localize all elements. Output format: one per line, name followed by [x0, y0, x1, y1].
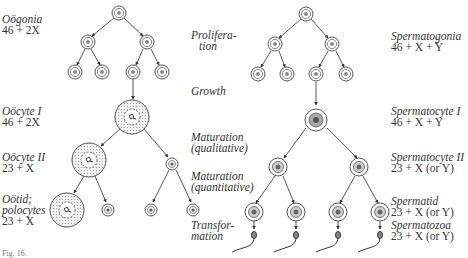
- spermatogonia-cells: [251, 7, 353, 81]
- label-ootid-polocytes: Oötid; polocytes 23 + X: [2, 194, 45, 227]
- polocytes: [102, 204, 199, 216]
- stage-transformation: Transfor- mation: [191, 220, 234, 242]
- stage-proliferation: Prolifera- tion: [191, 30, 237, 52]
- label-spermatogonia: Spermatogonia 46 + X + Y: [391, 31, 461, 53]
- first-polar-body: [166, 158, 178, 170]
- label-oogonia: Oögonia 46 + 2X: [2, 14, 42, 36]
- label-oocyte-i: Oöcyte I 46 + 2X: [2, 106, 41, 128]
- label-spermatocyte-i: Spermatocyte I 46 + X + Y: [391, 106, 460, 128]
- label-spermatozoa: Spermatozoa 23 + X (or Y): [391, 220, 454, 242]
- spermatocyte-ii-cells: [269, 158, 368, 176]
- spermatocyte-i-cell: [305, 109, 327, 131]
- stage-growth: Growth: [191, 86, 226, 97]
- stage-maturation-qualitative: Maturation (qualitative): [191, 132, 248, 154]
- ootid-cell: [50, 193, 84, 227]
- figure-caption: Fig. 16.: [2, 249, 27, 258]
- stage-maturation-quantitative: Maturation (quantitative): [191, 171, 254, 193]
- label-spermatocyte-ii: Spermatocyte II 23 + X (or Y): [391, 152, 464, 174]
- oogonia-cells: [68, 6, 169, 79]
- spermatid-cells: [245, 203, 389, 221]
- label-spermatid: Spermatid 23 + X (or Y): [391, 196, 454, 218]
- label-oocyte-ii: Oöcyte II 23 + X: [2, 152, 45, 174]
- spermatozoa: [232, 232, 383, 253]
- oocyte-ii-cell: [72, 143, 106, 177]
- oocyte-i-cell: [115, 100, 149, 134]
